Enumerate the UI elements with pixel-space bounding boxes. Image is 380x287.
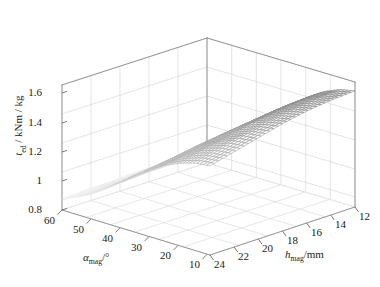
x-tick-20: 20 [160, 249, 171, 261]
z-axis-label-subscript: ed [19, 146, 28, 153]
x-axis-label-units: /° [102, 251, 109, 263]
y-tick-20: 20 [262, 242, 273, 254]
y-tick-14: 14 [335, 218, 346, 230]
z-axis-label-symbol: t [12, 153, 24, 156]
x-tick-40: 40 [102, 232, 113, 244]
figure-3d-surface-plot: 1.6 1.4 1.2 1 0.8 60 50 40 30 20 10 24 2… [0, 0, 380, 287]
y-axis-label: hmag/mm [285, 248, 324, 263]
x-axis-label: αmag/° [83, 251, 110, 266]
x-tick-50: 50 [73, 223, 84, 235]
z-axis-label-units: / kNm / kg [12, 95, 24, 145]
z-tick-1: 1 [14, 174, 42, 186]
y-tick-18: 18 [287, 234, 298, 246]
x-tick-60: 60 [44, 214, 55, 226]
x-axis-label-subscript: mag [89, 257, 102, 266]
y-axis-label-subscript: mag [291, 254, 304, 263]
y-tick-22: 22 [238, 250, 249, 262]
y-tick-12: 12 [359, 210, 370, 222]
z-axis-label: ted / kNm / kg [12, 80, 27, 172]
z-tick-0.8: 0.8 [14, 203, 42, 215]
x-tick-10: 10 [189, 258, 200, 270]
x-tick-30: 30 [131, 241, 142, 253]
y-tick-16: 16 [311, 226, 322, 238]
y-axis-label-units: /mm [304, 248, 324, 260]
y-tick-24: 24 [214, 258, 225, 270]
plot-canvas [0, 0, 380, 287]
